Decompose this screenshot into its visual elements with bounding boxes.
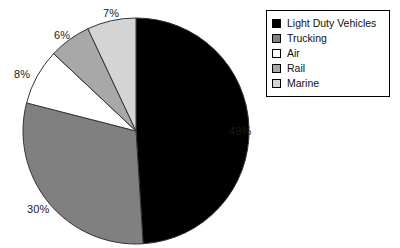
legend-item-label: Air (287, 48, 300, 59)
slice-label-marine: 7% (103, 7, 119, 19)
legend-item-rail: Rail (272, 61, 384, 76)
legend-item-trucking: Trucking (272, 31, 384, 46)
chart-legend: Light Duty Vehicles Trucking Air Rail Ma… (266, 10, 390, 97)
slice-label-light-duty-vehicles: 49% (229, 125, 251, 137)
legend-item-air: Air (272, 46, 384, 61)
legend-item-label: Rail (287, 63, 305, 74)
legend-item-light-duty-vehicles: Light Duty Vehicles (272, 16, 384, 31)
slice-label-trucking: 30% (27, 203, 49, 215)
legend-swatch-icon (272, 34, 281, 43)
legend-swatch-icon (272, 49, 281, 58)
legend-swatch-icon (272, 79, 281, 88)
legend-swatch-icon (272, 19, 281, 28)
legend-swatch-icon (272, 64, 281, 73)
slice-label-rail: 6% (54, 29, 70, 41)
legend-item-marine: Marine (272, 76, 384, 91)
pie-chart: 49% 30% 8% 6% 7% Light Duty Vehicles Tru… (0, 0, 400, 248)
slice-label-air: 8% (14, 68, 30, 80)
legend-item-label: Light Duty Vehicles (287, 18, 376, 29)
legend-item-label: Marine (287, 78, 319, 89)
pie-slice-group (23, 18, 249, 244)
legend-item-label: Trucking (287, 33, 327, 44)
